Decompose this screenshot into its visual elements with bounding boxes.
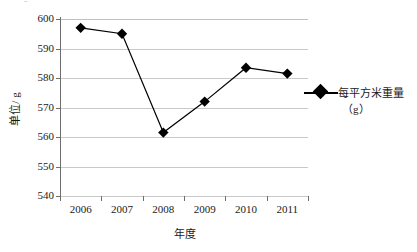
x-tick-label-2009: 2009 [185,203,225,215]
y-tick-mark-600 [56,19,61,20]
gridline-y-550 [60,167,308,168]
y-tick-mark-570 [56,108,61,109]
y-axis-title: 单位/ g [6,74,22,144]
legend-item-label: 每平方米重量 [338,86,404,100]
x-tick-label-2006: 2006 [61,203,101,215]
y-tick-mark-550 [56,167,61,168]
y-tick-label-590: 590 [24,43,54,54]
plot-area [60,19,308,196]
cropped-text-artifact: ｰ [24,0,38,5]
legend-diamond-marker-icon [304,86,338,100]
x-tick-mark-2 [143,196,144,201]
gridline-y-570 [60,108,308,109]
x-tick-label-2007: 2007 [102,203,142,215]
x-tick-mark-3 [184,196,185,201]
y-tick-mark-590 [56,49,61,50]
x-tick-mark-6 [308,196,309,201]
y-tick-label-550: 550 [24,161,54,172]
y-tick-label-570: 570 [24,102,54,113]
y-tick-label-540: 540 [24,190,54,201]
x-tick-label-2008: 2008 [143,203,183,215]
y-tick-label-560: 560 [24,131,54,142]
gridline-y-580 [60,78,308,79]
gridline-y-600 [60,19,308,20]
x-tick-mark-4 [225,196,226,201]
x-tick-label-2011: 2011 [267,203,307,215]
x-tick-mark-0 [60,196,61,201]
gridline-y-590 [60,49,308,50]
x-tick-mark-5 [267,196,268,201]
x-axis-title: 年度 [0,225,370,241]
y-tick-mark-560 [56,137,61,138]
y-tick-mark-580 [56,78,61,79]
x-tick-label-2010: 2010 [226,203,266,215]
gridline-y-560 [60,137,308,138]
legend-item[interactable]: 每平方米重量 [304,84,417,101]
chart-legend: 每平方米重量 （g） [304,84,417,117]
y-tick-label-580: 580 [24,72,54,83]
chart-screenshot: ｰ 540550560570580590600 2006200720082009… [0,0,417,252]
y-tick-label-600: 600 [24,13,54,24]
legend-item-unit: （g） [342,101,417,117]
x-tick-mark-1 [101,196,102,201]
